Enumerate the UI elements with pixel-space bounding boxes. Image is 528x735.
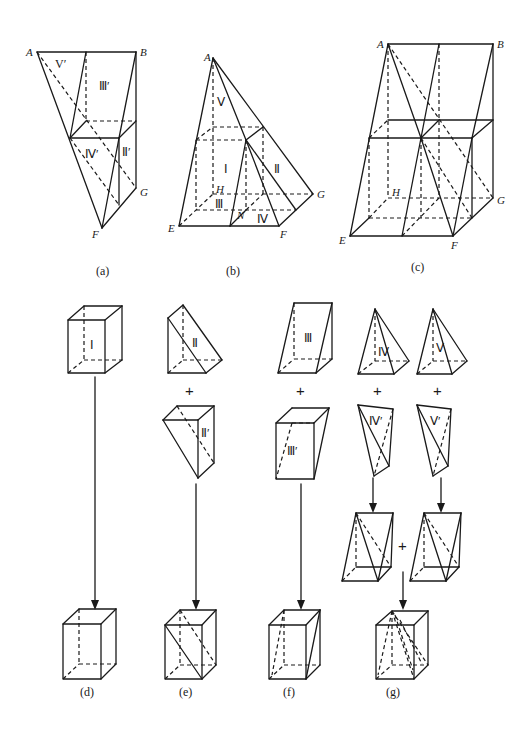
piece-label-IV: Ⅳ: [257, 212, 268, 226]
vertex-label-b-A: A: [203, 51, 211, 63]
figure-b: A E F G H N Ⅴ Ⅰ Ⅱ Ⅲ Ⅳ (b): [167, 51, 325, 278]
piece-label-g-V: Ⅴ: [436, 341, 445, 355]
piece-label-f-III: Ⅲ: [304, 331, 312, 345]
vertex-label-c-G: G: [497, 194, 505, 206]
vertex-label-b-N: N: [236, 209, 245, 221]
vertex-label-c-H: H: [391, 186, 401, 198]
piece-label-e-II-prime: Ⅱ′: [201, 426, 210, 440]
caption-f: (f): [283, 685, 295, 699]
figure-a: A B F G V′ Ⅲ′ Ⅳ′ Ⅱ′ (a): [25, 46, 148, 278]
vertex-label-c-A: A: [376, 38, 384, 50]
piece-label-III: Ⅲ: [215, 197, 223, 211]
vertex-label-b-H: H: [215, 183, 225, 195]
piece-label-g-IV: Ⅳ: [378, 345, 389, 359]
caption-e: (e): [179, 685, 192, 699]
plus-operator-g-3: +: [398, 537, 407, 554]
piece-label-II-prime: Ⅱ′: [122, 145, 131, 159]
piece-label-f-III-prime: Ⅲ′: [287, 444, 298, 458]
vertex-label-b-G: G: [317, 188, 325, 200]
figure-f: Ⅲ + Ⅲ′ (f): [269, 303, 332, 699]
plus-operator-g-1: +: [373, 382, 382, 399]
figure-c: A B E F G H (c): [338, 38, 505, 274]
vertex-label-a-F: F: [91, 228, 99, 240]
plus-operator-f: +: [296, 382, 305, 399]
piece-label-IV-prime: Ⅳ′: [85, 147, 99, 161]
geometry-dissection-figure: A B F G V′ Ⅲ′ Ⅳ′ Ⅱ′ (a): [0, 0, 528, 735]
figure-g: Ⅳ Ⅴ + + Ⅳ′ Ⅴ′: [342, 309, 467, 699]
piece-label-V-prime: V′: [55, 57, 67, 71]
plus-operator-e: +: [185, 382, 194, 399]
piece-label-e-II: Ⅱ: [192, 336, 198, 350]
piece-label-II: Ⅱ: [274, 162, 280, 176]
vertex-label-b-F: F: [279, 228, 287, 240]
figure-d: Ⅰ (d): [63, 306, 122, 699]
figure-e: Ⅱ + Ⅱ′ (e): [163, 305, 222, 699]
caption-g: (g): [386, 685, 400, 699]
piece-label-g-V-prime: Ⅴ′: [430, 414, 441, 428]
vertex-label-c-B: B: [497, 38, 504, 50]
plus-operator-g-2: +: [433, 382, 442, 399]
piece-label-III-prime: Ⅲ′: [99, 79, 110, 93]
vertex-label-a-A: A: [25, 46, 33, 58]
caption-b: (b): [226, 264, 240, 278]
vertex-label-c-F: F: [450, 239, 458, 251]
piece-label-I: Ⅰ: [224, 162, 228, 176]
caption-d: (d): [80, 685, 94, 699]
piece-label-d-I: Ⅰ: [90, 338, 94, 352]
vertex-label-a-G: G: [140, 186, 148, 198]
piece-label-g-IV-prime: Ⅳ′: [369, 414, 383, 428]
piece-label-V: Ⅴ: [217, 95, 226, 109]
vertex-label-b-E: E: [167, 222, 175, 234]
caption-a: (a): [96, 264, 109, 278]
vertex-label-a-B: B: [140, 46, 147, 58]
caption-c: (c): [411, 260, 424, 274]
vertex-label-c-E: E: [338, 234, 346, 246]
